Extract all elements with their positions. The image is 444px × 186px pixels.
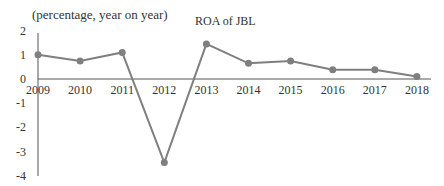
data-point-marker bbox=[287, 57, 294, 64]
x-tick-label: 2017 bbox=[363, 83, 387, 97]
y-tick-label: -2 bbox=[16, 120, 26, 134]
data-point-marker bbox=[119, 49, 126, 56]
data-point-marker bbox=[203, 40, 210, 47]
x-tick-label: 2012 bbox=[152, 83, 176, 97]
x-tick-label: 2015 bbox=[279, 83, 303, 97]
y-tick-label: 2 bbox=[20, 24, 26, 38]
data-point-marker bbox=[245, 60, 252, 67]
data-point-marker bbox=[77, 57, 84, 64]
data-point-marker bbox=[413, 73, 420, 80]
x-tick-label: 2013 bbox=[194, 83, 218, 97]
x-tick-label: 2014 bbox=[237, 83, 261, 97]
y-tick-label: 1 bbox=[20, 48, 26, 62]
y-axis-unit-label: (percentage, year on year) bbox=[32, 7, 168, 22]
data-point-marker bbox=[329, 66, 336, 73]
x-tick-label: 2018 bbox=[405, 83, 429, 97]
x-tick-label: 2009 bbox=[26, 83, 50, 97]
y-axis-tick-labels: 210-1-2-3-4 bbox=[16, 24, 26, 183]
chart-title: ROA of JBL bbox=[195, 14, 256, 28]
y-tick-label: -4 bbox=[16, 169, 26, 183]
roa-line-chart: (percentage, year on year) ROA of JBL 21… bbox=[0, 0, 444, 186]
x-tick-label: 2010 bbox=[68, 83, 92, 97]
x-axis-tick-labels: 2009201020112012201320142015201620172018 bbox=[26, 83, 429, 97]
roa-series-line bbox=[38, 44, 417, 163]
data-point-marker bbox=[35, 51, 42, 58]
y-tick-label: -1 bbox=[16, 96, 26, 110]
y-tick-label: -3 bbox=[16, 145, 26, 159]
x-tick-label: 2011 bbox=[110, 83, 134, 97]
data-point-marker bbox=[371, 66, 378, 73]
x-tick-label: 2016 bbox=[321, 83, 345, 97]
data-point-marker bbox=[161, 159, 168, 166]
